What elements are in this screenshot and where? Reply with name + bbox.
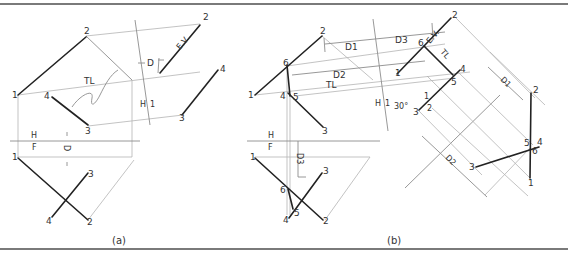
d2-label: D2: [333, 70, 346, 80]
point-label: 6: [532, 146, 538, 156]
fold-line-h1: [135, 20, 150, 125]
point-label: 1: [395, 68, 401, 78]
point-label: 3: [413, 107, 419, 117]
projector: [295, 78, 455, 96]
caption-b: (b): [387, 235, 401, 246]
point-label: 2: [533, 85, 539, 95]
descriptive-geometry-figure: 2 1 4 3 TL D E.V. 2 4 3 H 1 H F D 1 3 4 …: [0, 0, 568, 257]
point-label: 3: [323, 166, 329, 176]
point-label: 4: [280, 91, 286, 101]
tl-label: TL: [83, 76, 95, 86]
ev-label: E.V.: [175, 34, 191, 51]
point-label: 5: [294, 208, 300, 218]
fold-label-f: F: [32, 143, 37, 152]
fold-line-h1: [373, 19, 388, 131]
depth-label: D: [147, 58, 154, 68]
point-label: 1: [528, 178, 534, 188]
point-label: 3: [179, 113, 185, 123]
point-label: 6: [418, 38, 424, 48]
point-label: 2: [203, 12, 209, 22]
d1-ext: [324, 38, 325, 52]
fold-label-1: 1: [424, 92, 429, 101]
point-label: 3: [88, 169, 94, 179]
edge-1-2-front: [18, 158, 88, 220]
edge-2-1-aux2: [530, 93, 531, 178]
caption-a: (a): [112, 235, 126, 246]
point-label: 4: [44, 91, 50, 101]
edge-1-2-front: [255, 158, 323, 220]
point-label: 2: [452, 10, 458, 20]
point-label: 2: [84, 26, 90, 36]
angle-label: 30°: [394, 102, 408, 111]
panel-a: 2 1 4 3 TL D E.V. 2 4 3 H 1 H F D 1 3 4 …: [10, 12, 226, 246]
panel-b: 2 6 1 4 5 3 D1 D3 D2 TL H 1 30° 2 6 E.V.…: [247, 10, 545, 246]
point-label: 1: [12, 152, 18, 162]
tl-leader: [72, 70, 118, 107]
projector: [432, 108, 528, 196]
point-label: 5: [451, 77, 457, 87]
d3-front-label: D3: [295, 153, 304, 164]
point-label: 1: [250, 152, 256, 162]
fold-label-2: 2: [427, 104, 432, 113]
edge-3-4-aux1: [419, 70, 460, 110]
point-label: 1: [248, 90, 254, 100]
point-label: 1: [12, 90, 18, 100]
edge-1-2-top: [18, 37, 86, 95]
d2-dim: [292, 61, 425, 75]
tl-aux-label: TL: [438, 47, 452, 61]
tl-label: TL: [325, 80, 337, 90]
point-label: 4: [220, 64, 226, 74]
fold-label-1: 1: [150, 100, 155, 109]
point-label: 2: [87, 217, 93, 227]
edge-4-3-top: [52, 97, 88, 125]
point-label: 3: [322, 126, 328, 136]
projector: [455, 17, 535, 98]
fold-label-h: H: [375, 99, 381, 108]
point-label: 4: [46, 216, 52, 226]
fold-label-1: 1: [385, 99, 390, 108]
point-label: 4: [460, 64, 466, 74]
point-label: 3: [85, 126, 91, 136]
point-label: 4: [283, 215, 289, 225]
point-label: 6: [280, 185, 286, 195]
depth-label-front: D: [62, 145, 71, 151]
edge-3-4-aux: [182, 70, 218, 115]
d1-aux-label: D1: [499, 75, 513, 89]
projector: [86, 36, 132, 80]
projector: [325, 157, 370, 220]
point-label: 2: [320, 26, 326, 36]
projector: [88, 160, 134, 220]
point-label: 6: [283, 58, 289, 68]
fold-label-h: H: [268, 131, 274, 140]
projector: [88, 115, 183, 126]
fold-label-f: F: [268, 143, 273, 152]
d1-label: D1: [345, 42, 358, 52]
fold-label-h: H: [31, 131, 37, 140]
point-label: 5: [524, 138, 530, 148]
edge-4-3-front: [52, 173, 88, 217]
point-label: 2: [323, 216, 329, 226]
d2-aux-label: D2: [444, 153, 458, 167]
fold-label-h: H: [140, 100, 146, 109]
d3-label: D3: [395, 35, 408, 45]
point-label: 4: [537, 137, 543, 147]
point-label: 3: [469, 162, 475, 172]
point-label: 5: [293, 92, 299, 102]
